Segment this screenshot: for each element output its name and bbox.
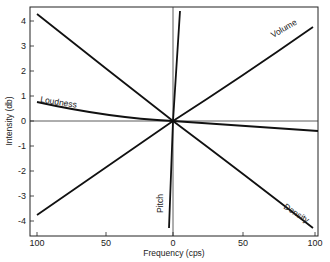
x-tick-label: 50 (238, 238, 248, 248)
y-tick-label: 2 (21, 66, 26, 76)
series-lines (37, 11, 318, 228)
y-tick-label: -3 (18, 191, 26, 201)
y-tick-label: 0 (21, 116, 26, 126)
series-loudness (37, 102, 318, 131)
x-tick-label: 100 (307, 238, 322, 248)
label-density: Density (282, 201, 312, 225)
y-tick-label: 4 (21, 16, 26, 26)
y-tick-label: -1 (18, 141, 26, 151)
y-tick-label: 3 (21, 41, 26, 51)
y-tick-label: -4 (18, 216, 26, 226)
x-axis-label: Frequency (cps) (143, 248, 205, 258)
x-tick-label: 50 (101, 238, 111, 248)
x-axis: 10050050100 (29, 232, 322, 248)
label-pitch: Pitch (155, 194, 165, 213)
y-axis-label: Intensity (db) (4, 96, 14, 145)
label-volume: Volume (269, 17, 299, 40)
y-tick-label: 1 (21, 91, 26, 101)
x-tick-label: 0 (170, 238, 175, 248)
y-axis: 43210-1-2-3-4 (18, 16, 34, 226)
y-tick-label: -2 (18, 166, 26, 176)
x-tick-label: 100 (29, 238, 44, 248)
chart: 43210-1-2-3-4 10050050100 Volume Loudnes… (0, 0, 330, 262)
